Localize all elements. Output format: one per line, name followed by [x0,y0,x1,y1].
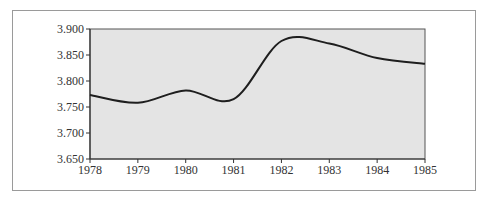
x-tick-label: 1979 [126,163,150,177]
y-tick-label: 3.900 [57,22,84,36]
x-tick-label: 1982 [269,163,293,177]
x-tick-label: 1980 [174,163,198,177]
x-tick-label: 1981 [222,163,246,177]
x-axis: 19781979198019811982198319841985 [78,159,437,177]
y-tick-label: 3.850 [57,48,84,62]
x-tick-label: 1983 [317,163,341,177]
plot-area [90,29,425,159]
y-tick-label: 3.800 [57,74,84,88]
y-tick-label: 3.700 [57,126,84,140]
x-tick-label: 1985 [413,163,437,177]
line-chart: 3.6503.7003.7503.8003.8503.900 197819791… [0,0,490,202]
y-axis: 3.6503.7003.7503.8003.8503.900 [57,22,90,166]
x-tick-label: 1984 [365,163,389,177]
x-tick-label: 1978 [78,163,102,177]
y-tick-label: 3.750 [57,100,84,114]
